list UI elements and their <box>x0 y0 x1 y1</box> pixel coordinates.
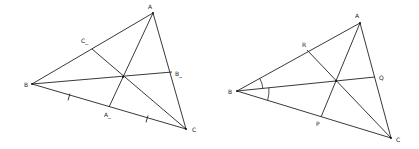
vertex-a <box>152 12 154 14</box>
center-point <box>335 80 337 82</box>
label-vertex-b: B <box>228 88 232 95</box>
geometry-diagram: ABCA_B_C_ ABCPQR <box>0 0 419 149</box>
label-vertex-a: A <box>148 3 153 10</box>
label-foot-c: C_ <box>81 37 89 45</box>
cevian-a <box>109 13 153 107</box>
label-foot-r: R <box>302 41 306 48</box>
label-vertex-b: B <box>24 81 28 88</box>
angle-arc-marker <box>260 78 263 88</box>
label-vertex-c: C <box>396 136 400 143</box>
cevian-p <box>321 23 360 117</box>
label-foot-a: A_ <box>104 111 112 119</box>
medians-triangle-figure: ABCA_B_C_ <box>24 3 196 133</box>
side-ab <box>32 13 153 84</box>
label-vertex-a: A <box>355 12 360 19</box>
equal-segment-tick-mark <box>146 116 148 123</box>
vertex-b <box>31 83 33 85</box>
vertex-b <box>236 90 238 92</box>
vertex-a <box>359 22 361 24</box>
angle-arc-marker <box>268 88 269 101</box>
center-point <box>122 76 124 78</box>
side-ca <box>360 23 391 138</box>
label-foot-b: B_ <box>175 70 183 78</box>
angle-bisectors-triangle-figure: ABCPQR <box>228 12 400 143</box>
side-bc <box>237 91 391 138</box>
label-foot-q: Q <box>379 74 384 81</box>
label-foot-p: P <box>316 120 320 127</box>
vertex-c <box>390 137 392 139</box>
label-vertex-c: C <box>192 126 196 133</box>
cevian-b <box>32 72 172 84</box>
vertex-c <box>185 128 187 130</box>
